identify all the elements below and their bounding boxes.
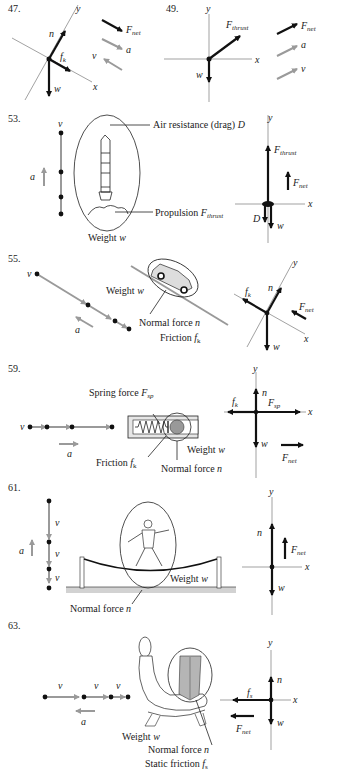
motion-dot — [86, 303, 91, 308]
n-label: n — [277, 674, 282, 685]
normal-force-callout: Normal force n — [148, 744, 209, 755]
velocity-arrow — [88, 305, 111, 319]
rocket-illustration — [88, 135, 128, 215]
motion-dot — [59, 212, 64, 217]
fs-label: fs — [247, 687, 253, 700]
propulsion-callout: Propulsion Fthrust — [155, 207, 224, 220]
friction-callout: Friction fk — [160, 332, 201, 345]
weight-callout: Weight w — [106, 285, 144, 296]
acceleration-arrow — [102, 39, 122, 49]
acceleration-arrow — [277, 46, 297, 56]
fk-label: fk — [60, 51, 67, 64]
v-label: v — [94, 680, 99, 691]
thrust-force-arrow — [209, 36, 240, 59]
weight-callout: Weight w — [88, 232, 126, 243]
weight-callout: Weight w — [122, 731, 160, 742]
problem-number: 49. — [166, 3, 179, 14]
problem-49: 49. y x Fthrust w Fnet a v — [164, 3, 317, 102]
problem-number: 61. — [8, 482, 21, 493]
weight-callout: Weight w — [187, 444, 225, 455]
v-label: v — [55, 548, 60, 559]
y-axis-label: y — [292, 257, 298, 268]
v-label: v — [27, 268, 32, 279]
fnet-label: Fnet — [300, 20, 317, 33]
motion-dot — [59, 131, 64, 136]
motion-dot — [59, 170, 64, 175]
motion-dot — [109, 695, 114, 700]
net-force-arrow — [277, 24, 297, 34]
x-axis-label: x — [292, 694, 298, 705]
v-label: v — [301, 63, 306, 74]
fnet-label: Fnet — [281, 452, 298, 465]
y-axis-label: y — [75, 3, 81, 14]
a-label: a — [301, 39, 306, 50]
problem-63: 63. v v v a Weight w Normal force n Stat… — [8, 620, 298, 770]
normal-force-callout: Normal force n — [139, 317, 200, 328]
problem-59: 59. v a Spring force Fsp Weight w Fricti… — [8, 363, 313, 478]
a-label: a — [19, 545, 24, 556]
problem-number: 47. — [8, 3, 21, 14]
problem-number: 63. — [8, 620, 21, 631]
fsp-label: Fsp — [267, 397, 281, 410]
fnet-label: Fnet — [125, 24, 142, 37]
friction-leader — [148, 436, 166, 457]
normal-force-callout: Normal force n — [161, 463, 222, 474]
spring-force-callout: Spring force Fsp — [89, 387, 154, 400]
y-axis-label: y — [267, 112, 273, 123]
w-label: w — [278, 582, 285, 593]
x-axis-label: x — [307, 198, 313, 209]
n-label: n — [262, 387, 267, 398]
w-label: w — [54, 83, 61, 94]
kinetic-friction-arrow — [243, 299, 267, 313]
w-label: w — [277, 220, 284, 231]
particle-dot — [270, 565, 275, 570]
motion-dot — [47, 567, 52, 572]
motion-dot — [113, 319, 118, 324]
particle-dot — [254, 410, 258, 414]
problem-53: 53. v a Air resistance (drag) D Propulsi… — [8, 112, 313, 243]
normal-force-callout: Normal force n — [70, 603, 131, 614]
problem-number: 55. — [8, 253, 21, 264]
w-label: w — [196, 69, 203, 80]
v-label: v — [55, 572, 60, 583]
velocity-arrow — [277, 69, 297, 79]
x-axis-label: x — [92, 81, 98, 92]
motion-dot — [82, 695, 87, 700]
velocity-arrow — [37, 274, 86, 304]
w-label: w — [273, 341, 280, 352]
problem-61: 61. v v v a Weight w Normal force n — [8, 482, 310, 615]
motion-dot — [45, 425, 50, 430]
fk-label: fk — [245, 286, 252, 299]
a-label: a — [81, 716, 86, 727]
fk-label: fk — [232, 396, 239, 409]
fnet-label: Fnet — [298, 301, 315, 314]
y-axis-label: y — [267, 637, 273, 648]
particle-dot — [47, 57, 52, 62]
car-illustration — [151, 264, 192, 293]
particle-dot — [269, 698, 274, 703]
free-body-diagrams-page: 47. y x n fk w Fnet a v 49. y x Fthrust … — [0, 0, 337, 770]
particle-dot — [265, 311, 270, 316]
normal-friction-leader — [150, 290, 166, 314]
motion-dot — [47, 586, 52, 591]
x-axis-label: x — [254, 54, 260, 65]
motion-dot — [47, 540, 52, 545]
friction-callout: Friction fk — [96, 457, 137, 470]
problem-55: 55. v a Weight w Normal force n Friction… — [8, 251, 315, 352]
motion-dot — [59, 195, 64, 200]
particle-dot — [207, 57, 212, 62]
v-label: v — [58, 680, 63, 691]
static-friction-callout: Static friction fs — [145, 758, 208, 770]
rocket-particle — [262, 201, 274, 207]
y-axis-label: y — [268, 486, 274, 497]
motion-dot — [35, 272, 40, 277]
motion-dot — [43, 695, 48, 700]
n-label: n — [257, 527, 262, 538]
weight-callout: Weight w — [170, 573, 208, 584]
a-label: a — [126, 44, 131, 55]
fthrust-label: Fthrust — [273, 144, 298, 157]
trampoline-illustration — [66, 520, 236, 593]
x-axis-label: x — [307, 406, 313, 417]
motion-dot — [47, 499, 52, 504]
net-force-arrow — [292, 311, 306, 319]
